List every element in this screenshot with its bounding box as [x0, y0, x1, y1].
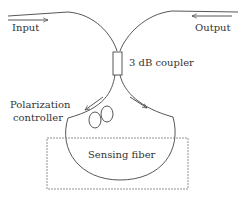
pc-label-line1: Polarization: [10, 99, 71, 110]
output-label: Output: [195, 22, 231, 33]
coupler-label: 3 dB coupler: [129, 57, 194, 68]
fiber-sensor-diagram: Input Output 3 dB coupler Polarization c…: [0, 0, 246, 202]
loop-arrow-right-icon: [130, 97, 147, 108]
sensing-region: [47, 138, 188, 189]
sensing-label: Sensing fiber: [88, 149, 156, 160]
pc-loop-1: [89, 112, 101, 128]
fiber-loop-right: [120, 75, 173, 117]
pc-loop-2: [101, 106, 113, 122]
fiber-loop-left: [68, 75, 115, 118]
input-label: Input: [12, 22, 39, 33]
pc-label-line2: controller: [13, 112, 63, 123]
coupler-box: [113, 52, 122, 75]
loop-arrow-left-icon: [85, 97, 103, 110]
